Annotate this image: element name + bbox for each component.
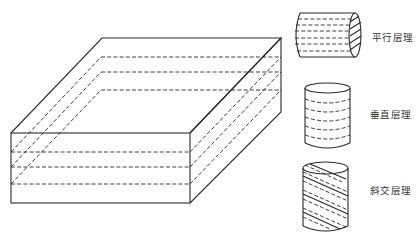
layered-rock-block xyxy=(11,38,281,203)
parallel-bedding-label: 平行层理 xyxy=(372,30,413,44)
oblique-bedding-label: 斜交层理 xyxy=(370,183,411,197)
block-front-face xyxy=(11,133,190,203)
bedding-plane-right-3 xyxy=(190,90,281,184)
bedding-plane-left-1 xyxy=(11,57,101,152)
block-right-face xyxy=(190,38,281,203)
parallel-bedding-sample xyxy=(295,13,361,57)
vertical-bedding-sample xyxy=(305,83,350,148)
block-top-face xyxy=(11,38,281,133)
vertical-bedding-label: 垂直层理 xyxy=(370,107,411,121)
bedding-diagram xyxy=(0,0,419,236)
oblique-bedding-sample xyxy=(303,162,348,231)
bedding-plane-right-1 xyxy=(190,57,281,152)
